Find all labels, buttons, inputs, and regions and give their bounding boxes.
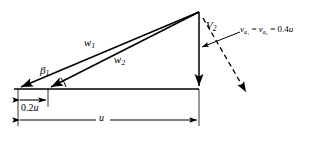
label-v2-symbol: V: [206, 19, 213, 31]
dimension-label-blade-speed: u: [99, 113, 104, 123]
axial-equals-1: =: [251, 24, 256, 34]
axial-equals-2: =: [270, 24, 275, 34]
label-w1: w1: [84, 37, 96, 50]
axial-unit-symbol: u: [289, 24, 294, 34]
dim-02u-value: 0.2: [21, 102, 34, 113]
axial-value: 0.4: [278, 24, 289, 34]
label-w1-subscript: 1: [91, 41, 95, 50]
axial-term1-subscript: a₁: [244, 29, 249, 35]
label-v2-subscript: 2: [213, 24, 217, 33]
label-axial-velocity: va₁ = va₂ = 0.4u: [240, 25, 293, 35]
label-beta1: β1: [40, 65, 49, 78]
axial-term2-subscript: a₂: [263, 29, 268, 35]
vector-w2: [51, 12, 199, 87]
label-w2: w2: [114, 54, 126, 67]
label-v2: V2: [206, 20, 216, 33]
dim-02u-unit: u: [34, 102, 39, 113]
label-beta1-subscript: 1: [45, 69, 49, 78]
dim-u-unit: u: [99, 112, 104, 123]
leader-line-axial-velocity: [202, 32, 240, 47]
dimension-label-inlet-offset: 0.2u: [21, 103, 39, 113]
label-w2-subscript: 2: [121, 58, 125, 67]
velocity-triangle-figure: w1 w2 β1 V2 va₁ = va₂ = 0.4u 0.2u u: [0, 0, 317, 144]
